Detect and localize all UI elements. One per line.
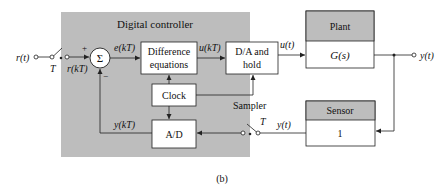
sigma-symbol: Σ [97, 52, 103, 64]
da-hold-line2: hold [243, 59, 261, 70]
minus-sign: − [103, 71, 108, 81]
input-switch-period-label: T [50, 63, 57, 74]
ad-label: A/D [165, 129, 182, 140]
clock-label: Clock [162, 90, 186, 101]
difference-equations-line2: equations [150, 59, 188, 70]
sampler-period-label: T [260, 116, 267, 127]
digital-controller-title: Digital controller [117, 18, 193, 30]
output-terminal [412, 53, 416, 57]
sampler-label: Sampler [233, 100, 267, 111]
output-signal-label: y(t) [419, 50, 435, 62]
input-signal-label: r(t) [16, 52, 30, 64]
da-hold-line1: D/A and [235, 46, 269, 57]
sensor-gain: 1 [338, 128, 343, 139]
sampled-input-label: r(kT) [67, 63, 88, 75]
sensor-header: Sensor [326, 105, 354, 116]
difference-equations-line1: Difference [148, 46, 191, 57]
input-terminal [34, 55, 38, 59]
continuous-control-label: u(t) [280, 39, 295, 51]
plus-sign: + [82, 43, 87, 53]
feedback-continuous-label: y(t) [276, 119, 292, 131]
plant-header: Plant [330, 21, 351, 32]
control-system-diagram: Digital controller r(t) T r(kT) + Σ − e(… [0, 0, 444, 190]
discrete-control-label: u(kT) [199, 42, 221, 54]
feedback-discrete-label: y(kT) [113, 119, 136, 131]
plant-transfer-function: G(s) [330, 49, 350, 62]
error-signal-label: e(kT) [114, 42, 136, 54]
figure-caption: (b) [216, 173, 228, 185]
